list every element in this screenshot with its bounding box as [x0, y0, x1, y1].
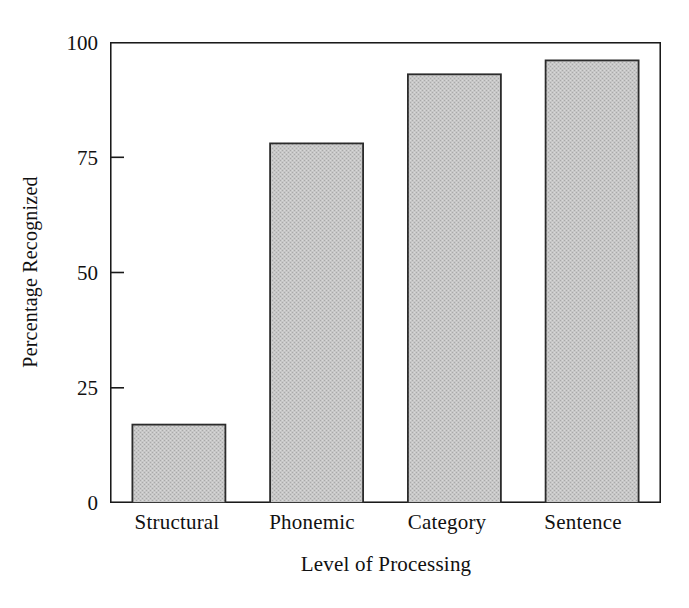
y-tick-text: 25 [77, 376, 98, 401]
y-tick-marks [110, 157, 124, 387]
x-tick-label-sentence: Sentence [492, 510, 674, 535]
y-axis-title: Percentage Recognized [10, 42, 50, 502]
y-tick-text: 50 [77, 261, 98, 286]
bar-chart-figure: Percentage Recognized 100 75 50 25 0 [0, 0, 689, 608]
y-tick-text: 100 [67, 31, 99, 56]
bar-category[interactable] [408, 74, 501, 503]
plot-area [110, 42, 661, 503]
x-axis-title: Level of Processing [110, 552, 662, 577]
bar-phonemic[interactable] [270, 143, 363, 503]
bars-group [132, 60, 638, 503]
bar-sentence[interactable] [546, 60, 639, 503]
y-tick-text: 75 [77, 146, 98, 171]
plot-svg [110, 42, 661, 503]
bar-structural[interactable] [132, 425, 225, 503]
